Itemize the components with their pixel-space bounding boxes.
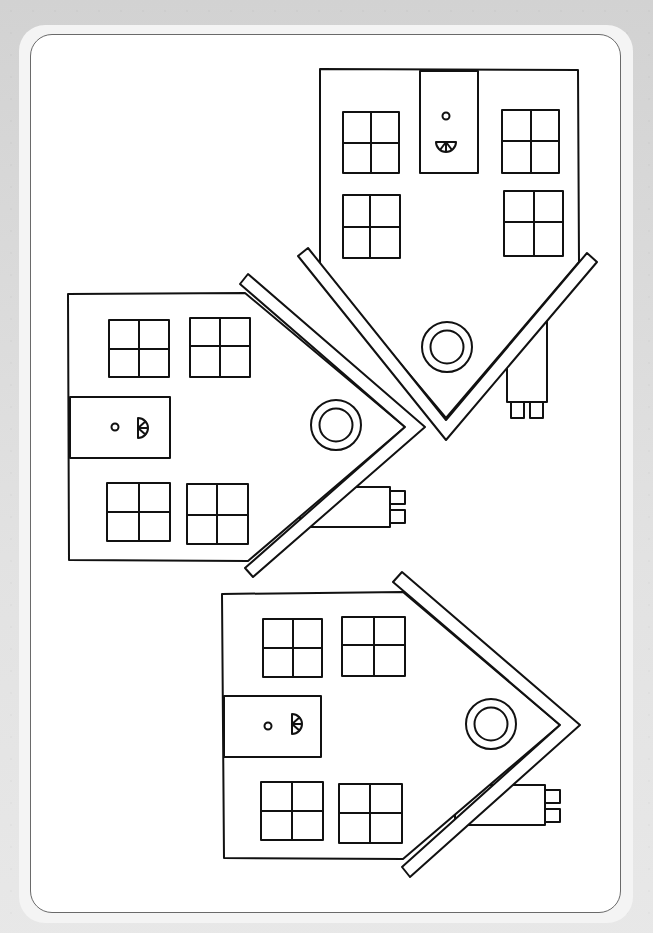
door	[420, 71, 478, 173]
window	[263, 619, 322, 677]
door-knob	[265, 723, 272, 730]
door	[70, 397, 170, 458]
door-knob	[112, 424, 119, 431]
sideways-house-bottom	[222, 572, 580, 877]
window	[343, 112, 399, 173]
round-window	[422, 322, 472, 372]
window	[342, 617, 405, 676]
window	[502, 110, 559, 173]
window	[109, 320, 169, 377]
house-drawing	[0, 0, 653, 933]
window	[190, 318, 250, 377]
window	[107, 483, 170, 541]
round-window	[311, 400, 361, 450]
door-knob	[443, 113, 450, 120]
window	[339, 784, 402, 843]
window	[504, 191, 563, 256]
door	[224, 696, 321, 757]
window	[343, 195, 400, 258]
window	[261, 782, 323, 840]
round-window	[466, 699, 516, 749]
window	[187, 484, 248, 544]
